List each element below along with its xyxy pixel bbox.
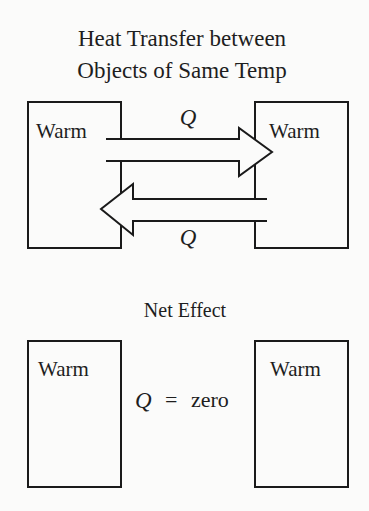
heat-transfer-diagram: Heat Transfer between Objects of Same Te…	[0, 0, 369, 511]
equation-symbol: Q	[135, 388, 152, 413]
arrow-right-icon	[106, 128, 272, 176]
right-warm-object-label: Warm	[269, 119, 320, 143]
title-line-2: Objects of Same Temp	[77, 58, 286, 83]
heat-q-label-top: Q	[180, 105, 197, 130]
left-warm-object-label: Warm	[36, 119, 87, 143]
net-effect-title: Net Effect	[144, 299, 227, 321]
net-left-warm-object-label: Warm	[38, 357, 89, 381]
net-right-warm-object-label: Warm	[270, 357, 321, 381]
equation-value: zero	[191, 387, 229, 412]
diagram-title: Heat Transfer between Objects of Same Te…	[77, 26, 286, 83]
heat-q-label-bottom: Q	[180, 225, 197, 250]
net-equation: Q = zero	[135, 387, 229, 413]
equation-operator: =	[165, 387, 177, 412]
top-section: Warm Warm Q Q	[28, 102, 348, 250]
bottom-section: Net Effect Warm Warm Q = zero	[28, 299, 348, 487]
title-line-1: Heat Transfer between	[78, 26, 287, 51]
